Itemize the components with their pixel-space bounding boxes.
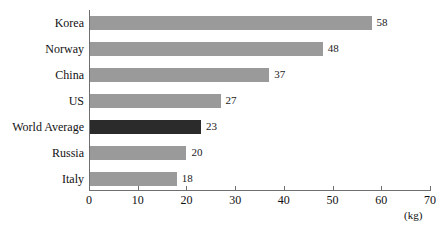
- x-tick: [284, 186, 285, 191]
- x-axis-line: [89, 190, 430, 191]
- x-tick-label-0: 0: [74, 193, 104, 207]
- y-axis-line: [89, 10, 90, 190]
- bar-row: US27: [89, 88, 430, 114]
- plot-area: Korea58Norway48China37US27World Average2…: [89, 10, 430, 190]
- x-tick: [89, 186, 90, 191]
- value-label-norway: 48: [328, 41, 339, 55]
- bar-norway: [89, 42, 323, 56]
- category-label-norway: Norway: [4, 40, 84, 58]
- bar-row: China37: [89, 62, 430, 88]
- x-tick-label-30: 30: [220, 193, 250, 207]
- x-tick: [138, 186, 139, 191]
- x-tick-label-70: 70: [415, 193, 444, 207]
- value-label-world-average: 23: [206, 119, 217, 133]
- x-tick-label-40: 40: [269, 193, 299, 207]
- bar-korea: [89, 16, 372, 30]
- bar-row: Russia20: [89, 140, 430, 166]
- category-label-italy: Italy: [4, 170, 84, 188]
- x-tick: [381, 186, 382, 191]
- category-label-us: US: [4, 92, 84, 110]
- category-label-russia: Russia: [4, 144, 84, 162]
- bar-row: World Average23: [89, 114, 430, 140]
- bar-row: Italy18: [89, 166, 430, 192]
- bar-world-average: [89, 120, 201, 134]
- category-label-world-average: World Average: [4, 118, 84, 136]
- bar-china: [89, 68, 269, 82]
- bar-row: Norway48: [89, 36, 430, 62]
- x-tick-label-20: 20: [171, 193, 201, 207]
- category-label-china: China: [4, 66, 84, 84]
- value-label-italy: 18: [182, 171, 193, 185]
- value-label-russia: 20: [191, 145, 202, 159]
- bar-us: [89, 94, 221, 108]
- x-tick: [430, 186, 431, 191]
- bar-italy: [89, 172, 177, 186]
- value-label-china: 37: [274, 67, 285, 81]
- x-tick: [186, 186, 187, 191]
- category-label-korea: Korea: [4, 14, 84, 32]
- chart-title-remnant: [0, 0, 444, 4]
- x-tick-label-50: 50: [318, 193, 348, 207]
- value-label-us: 27: [226, 93, 237, 107]
- x-tick: [235, 186, 236, 191]
- value-label-korea: 58: [377, 15, 388, 29]
- x-tick-label-60: 60: [366, 193, 396, 207]
- x-tick: [333, 186, 334, 191]
- x-tick-label-10: 10: [123, 193, 153, 207]
- bar-row: Korea58: [89, 10, 430, 36]
- bar-chart: Korea58Norway48China37US27World Average2…: [0, 0, 444, 230]
- bar-russia: [89, 146, 186, 160]
- x-axis-unit-label: (kg): [404, 209, 422, 222]
